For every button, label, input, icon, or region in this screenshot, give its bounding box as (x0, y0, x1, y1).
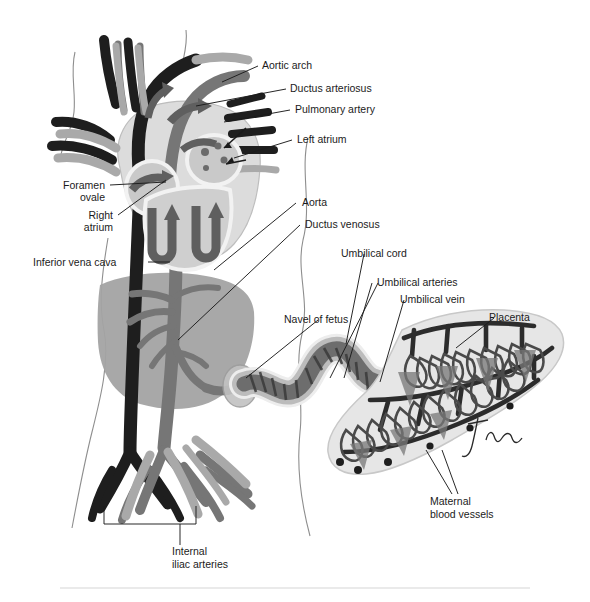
label-foramen-ovale-line1: Foramen (20, 179, 105, 191)
label-right-atrium-line1: Right (28, 209, 113, 221)
label-internal-iliac-line2: iliac arteries (172, 558, 228, 570)
label-foramen-ovale-line2: ovale (20, 191, 105, 203)
label-umbilical-vein: Umbilical vein (400, 293, 465, 305)
label-maternal-line1: Maternal (430, 495, 471, 507)
artist-signature (462, 418, 522, 457)
label-navel-of-fetus: Navel of fetus (284, 313, 348, 325)
label-placenta: Placenta (489, 311, 530, 323)
fetal-circulation-figure: Aortic arch Ductus arteriosus Pulmonary … (0, 0, 590, 602)
label-right-atrium-line2: atrium (28, 221, 113, 233)
label-maternal-line2: blood vessels (430, 508, 494, 520)
label-inferior-vena-cava: Inferior vena cava (33, 256, 116, 268)
label-left-atrium: Left atrium (297, 133, 347, 145)
label-aorta: Aorta (302, 196, 327, 208)
label-ductus-venosus: Ductus venosus (305, 218, 380, 230)
label-aortic-arch: Aortic arch (262, 59, 312, 71)
label-umbilical-arteries: Umbilical arteries (377, 276, 458, 288)
label-umbilical-cord: Umbilical cord (341, 247, 407, 259)
label-ductus-arteriosus: Ductus arteriosus (290, 82, 372, 94)
label-pulmonary-artery: Pulmonary artery (295, 103, 375, 115)
label-internal-iliac-line1: Internal (172, 545, 207, 557)
